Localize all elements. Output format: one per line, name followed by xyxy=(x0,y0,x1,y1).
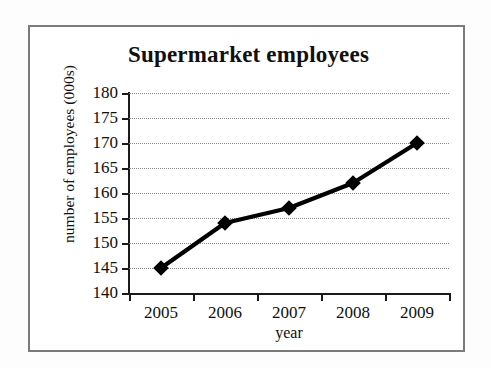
y-axis-tick-label: 150 xyxy=(72,233,118,253)
y-axis-tick xyxy=(122,118,129,120)
y-axis-tick-label: 180 xyxy=(72,83,118,103)
gridline xyxy=(129,168,449,169)
gridline xyxy=(129,143,449,144)
data-point-marker xyxy=(345,175,361,191)
gridline xyxy=(129,118,449,119)
x-axis-tick xyxy=(129,293,131,301)
x-axis-tick xyxy=(193,293,195,301)
y-axis-tick xyxy=(122,218,129,220)
y-axis-tick-label: 175 xyxy=(72,108,118,128)
x-axis-tick-label: 2009 xyxy=(400,303,434,323)
y-axis-tick-label: 165 xyxy=(72,158,118,178)
chart-frame: Supermarket employees number of employee… xyxy=(28,25,465,352)
x-axis-tick xyxy=(449,293,451,301)
y-axis-tick xyxy=(122,268,129,270)
y-axis-tick xyxy=(122,243,129,245)
x-axis-tick-label: 2005 xyxy=(144,303,178,323)
gridline xyxy=(129,193,449,194)
chart-page: Supermarket employees number of employee… xyxy=(0,0,491,368)
gridline xyxy=(129,243,449,244)
x-axis-tick xyxy=(321,293,323,301)
y-axis-tick xyxy=(122,168,129,170)
gridline xyxy=(129,268,449,269)
y-axis-tick-label: 140 xyxy=(72,283,118,303)
y-axis-tick-label: 170 xyxy=(72,133,118,153)
y-axis-tick xyxy=(122,293,129,295)
y-axis-tick-label: 155 xyxy=(72,208,118,228)
chart-title: Supermarket employees xyxy=(30,42,467,68)
x-axis-tick xyxy=(257,293,259,301)
y-axis-tick-label: 160 xyxy=(72,183,118,203)
series-polyline xyxy=(161,143,417,268)
gridline xyxy=(129,93,449,94)
x-axis-tick-label: 2008 xyxy=(336,303,370,323)
x-axis-tick xyxy=(385,293,387,301)
y-axis-tick-label: 145 xyxy=(72,258,118,278)
data-point-marker xyxy=(281,200,297,216)
y-axis-tick xyxy=(122,93,129,95)
x-axis-title: year xyxy=(129,324,449,342)
y-axis-tick xyxy=(122,143,129,145)
plot-area: 180175170165160155150145140 200520062007… xyxy=(129,93,449,293)
gridline xyxy=(129,218,449,219)
x-axis-tick-label: 2006 xyxy=(208,303,242,323)
y-axis-tick xyxy=(122,193,129,195)
x-axis-line xyxy=(128,293,450,295)
x-axis-tick-label: 2007 xyxy=(272,303,306,323)
